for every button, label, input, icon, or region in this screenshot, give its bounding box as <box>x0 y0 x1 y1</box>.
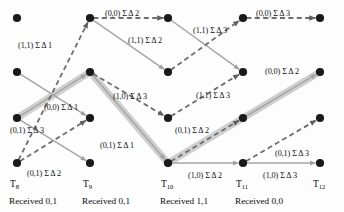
trellis-state-node <box>13 159 21 167</box>
edge-metric-label: (1,0) Σ Δ 3 <box>263 172 297 180</box>
edge-metric-value: Σ Δ 2 <box>120 9 139 18</box>
trellis-state-node <box>239 159 247 167</box>
edge-metric-label: (0,0) Σ Δ 1 <box>44 104 78 112</box>
stage-label-base: T <box>313 179 319 189</box>
trellis-state-node <box>13 114 21 122</box>
edge-output-pair: (0,0) <box>256 9 271 18</box>
edge-metric-value: Σ Δ 2 <box>190 126 209 135</box>
edge-metric-value: Σ Δ 1 <box>33 41 52 50</box>
stage-label-t8: T8 <box>10 180 19 189</box>
edge-metric-value: Σ Δ 2 <box>280 67 299 76</box>
edge-metric-label: (0,0) Σ Δ 2 <box>105 10 139 18</box>
edge-output-pair: (1,1) <box>18 41 33 50</box>
trellis-state-node <box>316 14 324 22</box>
trellis-state-node <box>239 114 247 122</box>
trellis-state-node <box>164 159 172 167</box>
trellis-state-node <box>86 14 94 22</box>
edge-output-pair: (1,0) <box>188 171 203 180</box>
received-symbol-label-t10: Received 1,1 <box>160 197 208 206</box>
edge-metric-label: (0,1) Σ Δ 2 <box>27 170 61 178</box>
edge-metric-label: (1,1) Σ Δ 3 <box>193 27 227 35</box>
edge-metric-label: (1,1) Σ Δ 2 <box>128 37 162 45</box>
stage-label-subscript: 11 <box>242 183 248 190</box>
stage-label-subscript: 12 <box>319 183 326 190</box>
edge-output-pair: (0,0) <box>44 103 59 112</box>
edge-output-pair: (1,0) <box>113 92 128 101</box>
edge-metric-value: Σ Δ 3 <box>290 149 309 158</box>
stage-label-t10: T10 <box>161 180 173 189</box>
stage-label-t9: T9 <box>83 180 92 189</box>
edge-metric-value: Σ Δ 2 <box>203 171 222 180</box>
trellis-state-node <box>316 68 324 76</box>
trellis-state-node <box>86 114 94 122</box>
received-word: Received <box>235 196 271 206</box>
received-word: Received <box>82 196 118 206</box>
edge-metric-label: (0,1) Σ Δ 2 <box>175 127 209 135</box>
edge-output-pair: (0,1) <box>175 126 190 135</box>
edge-output-pair: (0,1) <box>100 141 115 150</box>
edge-metric-value: Σ Δ 3 <box>208 26 227 35</box>
received-bits: 0,1 <box>45 196 56 206</box>
received-word: Received <box>160 196 196 206</box>
edge-metric-label: (0,1) Σ Δ 3 <box>275 150 309 158</box>
edge-output-pair: (0,0) <box>105 9 120 18</box>
trellis-state-node <box>86 159 94 167</box>
edge-metric-label: (1,1) Σ Δ 3 <box>196 92 230 100</box>
received-word: Received <box>9 196 45 206</box>
edge-output-pair: (0,1) <box>10 126 25 135</box>
received-bits: 0,1 <box>118 196 129 206</box>
edge-metric-label: (0,1) Σ Δ 1 <box>100 142 134 150</box>
edge-metric-value: Σ Δ 3 <box>271 9 290 18</box>
edge-output-pair: (1,1) <box>128 36 143 45</box>
edge-output-pair: (1,1) <box>193 26 208 35</box>
edge-output-pair: (0,0) <box>265 67 280 76</box>
edge-metric-label: (1,1) Σ Δ 1 <box>18 42 52 50</box>
trellis-state-node <box>316 159 324 167</box>
received-bits: 0,0 <box>271 196 282 206</box>
trellis-state-node <box>316 114 324 122</box>
edge-output-pair: (1,1) <box>196 91 211 100</box>
trellis-state-node <box>86 68 94 76</box>
edge-metric-value: Σ Δ 2 <box>42 169 61 178</box>
trellis-state-node <box>164 68 172 76</box>
edge-metric-label: (0,0) Σ Δ 3 <box>256 10 290 18</box>
edge-metric-label: (0,1) Σ Δ 3 <box>10 127 44 135</box>
trellis-state-node <box>164 114 172 122</box>
edge-output-pair: (0,1) <box>27 169 42 178</box>
edge-metric-value: Σ Δ 3 <box>278 171 297 180</box>
stage-label-t12: T12 <box>313 180 325 189</box>
edge-metric-value: Σ Δ 3 <box>25 126 44 135</box>
received-symbol-label-t9: Received 0,1 <box>82 197 130 206</box>
edge-output-pair: (1,0) <box>263 171 278 180</box>
trellis-state-node <box>164 14 172 22</box>
trellis-state-node <box>239 14 247 22</box>
edge-metric-label: (1,0) Σ Δ 3 <box>113 93 147 101</box>
stage-label-base: T <box>161 179 167 189</box>
stage-label-base: T <box>10 179 16 189</box>
trellis-diagram: (0,0) Σ Δ 2(0,0) Σ Δ 3(1,1) Σ Δ 1(1,1) Σ… <box>0 0 344 212</box>
stage-label-subscript: 8 <box>16 183 19 190</box>
edge-output-pair: (0,1) <box>275 149 290 158</box>
stage-label-t11: T11 <box>236 180 248 189</box>
stage-label-base: T <box>83 179 89 189</box>
trellis-edge-solid <box>246 74 316 116</box>
edge-metric-value: Σ Δ 2 <box>143 36 162 45</box>
received-bits: 1,1 <box>196 196 207 206</box>
edge-metric-value: Σ Δ 1 <box>115 141 134 150</box>
trellis-state-node <box>13 68 21 76</box>
received-symbol-label-t8: Received 0,1 <box>9 197 57 206</box>
received-symbol-label-t11: Received 0,0 <box>235 197 283 206</box>
edge-metric-value: Σ Δ 3 <box>211 91 230 100</box>
edge-metric-label: (1,0) Σ Δ 2 <box>188 172 222 180</box>
stage-label-subscript: 10 <box>167 183 174 190</box>
edge-metric-value: Σ Δ 3 <box>128 92 147 101</box>
stage-label-subscript: 9 <box>89 183 92 190</box>
trellis-state-node <box>13 14 21 22</box>
edge-metric-label: (0,0) Σ Δ 2 <box>265 68 299 76</box>
trellis-state-node <box>239 68 247 76</box>
stage-label-base: T <box>236 179 242 189</box>
edge-metric-value: Σ Δ 1 <box>59 103 78 112</box>
